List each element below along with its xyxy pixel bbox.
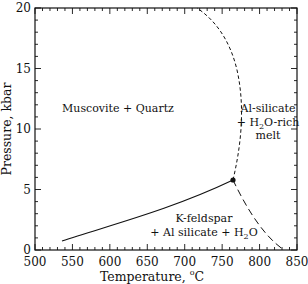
phase-diagram: 500 550 600 650 700 750 800 850 0 5 10 1…: [0, 0, 308, 284]
label-al-silicate: Al-silicate: [239, 102, 295, 115]
y-tick-10: 10: [16, 122, 31, 136]
label-muscovite-quartz: Muscovite + Quartz: [62, 102, 174, 115]
x-tick-600: 600: [98, 255, 121, 269]
y-tick-labels: 0 5 10 15 20: [16, 1, 31, 257]
y-axis-label: Pressure, kbar: [0, 82, 14, 175]
x-tick-750: 750: [211, 255, 234, 269]
x-tick-700: 700: [173, 255, 196, 269]
y-tick-0: 0: [23, 243, 31, 257]
y-tick-20: 20: [16, 1, 31, 15]
x-tick-labels: 500 550 600 650 700 750 800 850: [24, 255, 308, 269]
y-tick-5: 5: [23, 183, 31, 197]
x-tick-550: 550: [61, 255, 84, 269]
y-tick-15: 15: [16, 62, 31, 76]
x-axis-label: Temperature, oC: [100, 268, 204, 284]
x-tick-800: 800: [248, 255, 271, 269]
x-tick-850: 850: [286, 255, 308, 269]
x-tick-500: 500: [24, 255, 47, 269]
dashed-melt-curve: [197, 8, 242, 180]
x-tick-650: 650: [136, 255, 159, 269]
long-dashed-curve: [233, 180, 284, 250]
label-melt: melt: [256, 129, 281, 142]
invariant-point: [230, 177, 235, 182]
label-al-silicate-h2o: + Al silicate + H2O: [150, 226, 257, 241]
label-k-feldspar: K-feldspar: [176, 212, 234, 225]
